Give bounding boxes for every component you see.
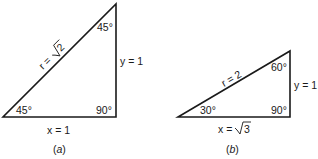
caption-a: (a) [53, 143, 66, 155]
angle-bottom-left-b: 30° [200, 104, 216, 116]
svg-text:3: 3 [244, 123, 250, 135]
angle-top-a: 45° [97, 21, 113, 33]
trig-triangles-diagram: r = 2 45° 45° 90° y = 1 x = 1 (a) r = 2 … [0, 0, 318, 159]
figure-a: r = 2 45° 45° 90° y = 1 x = 1 (a) [3, 4, 143, 155]
angle-right-a: 90° [96, 104, 112, 116]
svg-text:2: 2 [54, 41, 67, 54]
caption-b: (b) [226, 143, 239, 155]
hypotenuse-label-a: r = 2 [36, 40, 68, 72]
vertical-label-b: y = 1 [294, 79, 317, 91]
angle-bottom-left-a: 45° [16, 104, 32, 116]
angle-top-b: 60° [271, 61, 287, 73]
angle-right-b: 90° [271, 104, 287, 116]
vertical-label-a: y = 1 [120, 55, 143, 67]
horizontal-label-a: x = 1 [47, 124, 70, 136]
svg-text:x =: x = [218, 123, 232, 135]
horizontal-label-b: x = 3 [218, 122, 251, 135]
figure-b: r = 2 60° 30° 90° y = 1 x = 3 (b) [178, 51, 317, 155]
